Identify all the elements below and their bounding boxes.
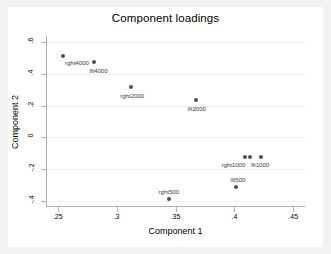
scatter-marker xyxy=(129,85,133,89)
y-axis-label-text: Component 2 xyxy=(10,94,20,148)
x-axis-label-text: Component 1 xyxy=(148,226,202,236)
grid-line xyxy=(47,201,305,202)
x-tick-label: .3 xyxy=(114,213,120,220)
y-tick-label: .4 xyxy=(24,69,38,79)
plot-area: rght4000lft4000rght2000lft2000rght1000lf… xyxy=(46,36,305,207)
x-tick-label: .45 xyxy=(288,213,298,220)
x-tick-label: .25 xyxy=(53,213,63,220)
y-tick-label: .2 xyxy=(24,101,38,111)
point-label: rght2000 xyxy=(120,92,144,99)
y-axis-label: Component 2 xyxy=(8,36,22,207)
point-label: lft500 xyxy=(231,176,246,183)
grid-line xyxy=(47,74,305,75)
scatter-marker xyxy=(194,98,198,102)
scatter-marker xyxy=(61,54,65,58)
grid-line xyxy=(47,137,305,138)
scatter-marker xyxy=(243,155,247,159)
point-label: rght500 xyxy=(158,188,179,195)
grid-line xyxy=(47,169,305,170)
x-axis-label: Component 1 xyxy=(46,226,305,236)
scatter-marker xyxy=(234,185,238,189)
x-tick-label: .4 xyxy=(231,213,237,220)
chart-figure: Component loadings Component 2 -.4-.20.2… xyxy=(0,0,331,254)
scatter-marker xyxy=(248,155,252,159)
grid-line xyxy=(47,42,305,43)
point-label: lft4000 xyxy=(89,67,107,74)
x-tick-mark xyxy=(176,207,177,212)
scatter-marker xyxy=(92,60,96,64)
chart-title: Component loadings xyxy=(8,12,323,24)
x-tick-label: .35 xyxy=(171,213,181,220)
y-tick-label: .6 xyxy=(24,37,38,47)
point-label: lft1000 xyxy=(251,161,269,168)
point-label: rght4000 xyxy=(65,59,89,66)
point-label: lft2000 xyxy=(188,105,206,112)
x-tick-mark xyxy=(58,207,59,212)
scatter-marker xyxy=(259,155,263,159)
y-tick-label: 0 xyxy=(24,132,38,142)
y-tick-label: -.4 xyxy=(24,196,38,206)
x-tick-mark xyxy=(234,207,235,212)
x-tick-mark xyxy=(117,207,118,212)
x-tick-mark xyxy=(293,207,294,212)
point-label: rght1000 xyxy=(221,161,245,168)
grid-line xyxy=(47,106,305,107)
y-tick-label: -.2 xyxy=(24,164,38,174)
